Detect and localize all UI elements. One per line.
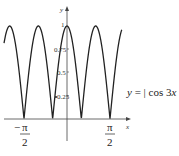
eq-close: | xyxy=(176,86,179,98)
xtick-pos-two: 2 xyxy=(107,136,113,148)
eq-eq: = | xyxy=(132,86,149,98)
ytick-label-075: 0.75 xyxy=(54,46,67,54)
ytick-label-05: 0.5 xyxy=(57,69,66,77)
x-axis-arrow-icon xyxy=(126,117,131,121)
y-axis-label: y xyxy=(59,6,64,14)
ytick-label-025: 0.25 xyxy=(57,93,70,101)
xtick-neg-pi: π xyxy=(22,121,28,133)
xtick-neg-two: 2 xyxy=(22,136,28,148)
cos-chart: y x 1 0.75 0.5 0.25 − π 2 π 2 xyxy=(0,0,179,156)
equation-label: y = | cos 3x | xyxy=(127,86,179,98)
eq-func: cos xyxy=(149,86,164,98)
ytick-label-1: 1 xyxy=(61,21,65,29)
x-axis-label: x xyxy=(125,123,130,131)
xtick-neg-minus: − xyxy=(14,121,20,133)
y-axis-arrow-icon xyxy=(65,6,69,11)
xtick-pos-pi: π xyxy=(107,121,113,133)
